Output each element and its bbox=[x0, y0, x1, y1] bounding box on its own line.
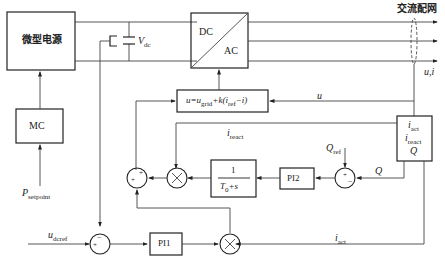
dcsum-plus: + bbox=[93, 242, 97, 249]
qsum-minus: − bbox=[348, 178, 353, 186]
qref-label: Qref bbox=[326, 143, 341, 156]
ui-label: u,i bbox=[424, 67, 434, 77]
mc-label: MC bbox=[29, 121, 45, 131]
micro-source-label: 微型电源 bbox=[22, 35, 62, 45]
inverter-ac-label: AC bbox=[224, 46, 238, 56]
psetpoint-label: Psetpoint bbox=[22, 188, 50, 201]
pi2-label: PI2 bbox=[287, 174, 300, 183]
qsum-plus: + bbox=[343, 172, 347, 179]
filter-numerator: 1 bbox=[231, 166, 236, 175]
dcsum-minus: − bbox=[97, 234, 102, 242]
q-label: Q bbox=[375, 166, 382, 176]
ireact-label: ireact bbox=[227, 128, 243, 141]
iact-label: iact bbox=[335, 233, 346, 246]
pi1-label: PI1 bbox=[158, 239, 171, 248]
udcref-label: udcref bbox=[48, 230, 67, 243]
meas-iact: iact bbox=[408, 120, 419, 133]
sum-plus-right: + bbox=[139, 170, 143, 177]
block-diagram-canvas bbox=[0, 0, 445, 266]
ac-grid-label: 交流配网 bbox=[397, 4, 437, 14]
meas-q: Q bbox=[410, 146, 417, 156]
vdc-label: Vdc bbox=[138, 36, 151, 49]
u-feedback-label: u bbox=[317, 91, 322, 101]
sum-plus-bottom: + bbox=[131, 177, 135, 184]
control-law-label: u=ugrid+k(iref−i) bbox=[186, 96, 247, 108]
filter-denominator: T0+s bbox=[220, 182, 238, 194]
inverter-dc-label: DC bbox=[199, 27, 213, 37]
